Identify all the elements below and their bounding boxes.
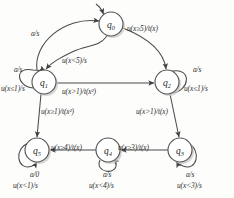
edge-label-q2-to-q3: u(x>1)/t(x) xyxy=(136,108,168,116)
self-loop-label-q3-a: a/s xyxy=(186,171,194,179)
self-loop-label-q5-u: u(x<1)/s xyxy=(13,182,38,190)
initial-state-arrow xyxy=(96,4,104,14)
edge-q2-to-q3 xyxy=(170,94,179,137)
self-loop-label-q2-u: u(x≤1)/s xyxy=(184,85,208,93)
self-loop-label-q1-u: u(x≤1)/s xyxy=(1,85,25,93)
self-loop-label-q1-a: a/s xyxy=(14,66,22,74)
edge-label-q4-to-q5: u(x≥4)/t(x) xyxy=(51,144,82,152)
edge-label-q0-to-q1: u(x<5)/s xyxy=(62,57,87,65)
edge-q0-to-q2 xyxy=(123,28,166,69)
self-loop-label-q3-u: u(x<3)/s xyxy=(177,182,202,190)
edge-label-q1-to-q5: u(x≥1)/t(x²) xyxy=(41,108,74,116)
self-loop-label-q4-a: a/s xyxy=(103,171,111,179)
edge-label-q3-to-q4: u(x≥3)/t(x) xyxy=(118,144,149,152)
edge-label-q1-to-q2: u(x>1)/t(x²) xyxy=(62,88,96,96)
edge-label-q1-to-q0: a/s xyxy=(31,30,39,38)
self-loop-label-q5-a: a/0 xyxy=(30,171,39,179)
self-loop-label-q4-u: u(x<4)/s xyxy=(89,182,114,190)
state-diagram-canvas: q0 q1 q2 q3 q4 q5 a/s u(x<5)/s u(x≥5)/t(… xyxy=(0,0,234,198)
edge-label-q0-to-q2: u(x≥5)/t(x) xyxy=(127,25,158,33)
self-loop-label-q2-a: a/s xyxy=(193,66,201,74)
